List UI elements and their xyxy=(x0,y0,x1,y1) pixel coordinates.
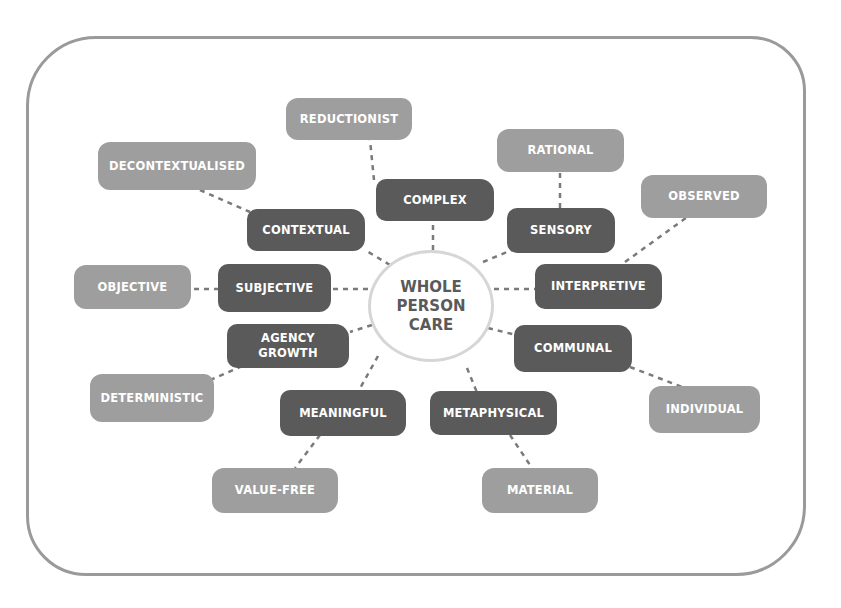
node-interpretive: INTERPRETIVE xyxy=(535,264,662,309)
node-value-free: VALUE-FREE xyxy=(212,468,338,513)
node-individual: INDIVIDUAL xyxy=(649,386,760,433)
node-label: SUBJECTIVE xyxy=(236,281,314,296)
node-communal: COMMUNAL xyxy=(514,325,632,372)
node-label: SENSORY xyxy=(530,223,592,238)
node-label-line1: AGENCY xyxy=(261,331,315,346)
node-label: RATIONAL xyxy=(527,143,593,158)
node-label: METAPHYSICAL xyxy=(443,406,544,421)
node-material: MATERIAL xyxy=(482,468,598,513)
node-reductionist: REDUCTIONIST xyxy=(286,98,412,140)
node-agency-growth: AGENCY GROWTH xyxy=(227,324,349,368)
node-rational: RATIONAL xyxy=(497,129,624,172)
node-label: OBJECTIVE xyxy=(98,280,168,295)
node-label: VALUE-FREE xyxy=(235,483,315,498)
center-label-line3: CARE xyxy=(409,316,453,335)
node-complex: COMPLEX xyxy=(376,179,494,221)
center-label-line2: PERSON xyxy=(397,297,466,316)
node-label: COMPLEX xyxy=(403,193,467,208)
node-deterministic: DETERMINISTIC xyxy=(90,374,214,422)
node-label: DECONTEXTUALISED xyxy=(109,159,245,174)
node-label: INDIVIDUAL xyxy=(666,402,744,417)
node-decontextualised: DECONTEXTUALISED xyxy=(98,142,256,190)
node-observed: OBSERVED xyxy=(641,175,767,218)
node-label: OBSERVED xyxy=(668,189,739,204)
center-label-line1: WHOLE xyxy=(400,278,462,297)
node-label: CONTEXTUAL xyxy=(262,223,349,238)
node-objective: OBJECTIVE xyxy=(74,265,191,309)
node-label: COMMUNAL xyxy=(534,341,612,356)
node-label: DETERMINISTIC xyxy=(100,391,203,406)
node-subjective: SUBJECTIVE xyxy=(218,264,331,312)
node-meaningful: MEANINGFUL xyxy=(280,390,406,436)
node-contextual: CONTEXTUAL xyxy=(247,209,365,251)
node-sensory: SENSORY xyxy=(507,208,615,253)
center-node-whole-person-care: WHOLE PERSON CARE xyxy=(368,250,494,362)
node-label: MEANINGFUL xyxy=(299,406,387,421)
node-label: INTERPRETIVE xyxy=(551,279,646,294)
node-label: REDUCTIONIST xyxy=(300,112,398,127)
node-label-line2: GROWTH xyxy=(258,346,317,361)
node-label: MATERIAL xyxy=(507,483,573,498)
node-metaphysical: METAPHYSICAL xyxy=(430,391,557,435)
